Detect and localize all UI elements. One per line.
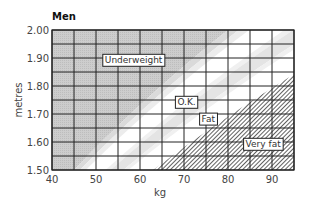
x-tick-label: 80 <box>222 174 235 185</box>
zone-label-o-k: O.K. <box>175 96 197 108</box>
zone-label-text: Very fat <box>246 139 282 149</box>
zone-label-text: O.K. <box>177 97 195 107</box>
zone-label-text: Underweight <box>105 55 163 65</box>
x-tick-label: 60 <box>134 174 147 185</box>
bmi-chart: Men 405060708090 1.501.601.701.801.902.0… <box>0 0 313 208</box>
y-tick-label: 2.00 <box>27 25 49 36</box>
y-tick-label: 1.50 <box>27 165 49 176</box>
zone-label-fat: Fat <box>200 113 218 125</box>
zone-label-underweight: Underweight <box>103 54 165 66</box>
x-tick-label: 90 <box>266 174 279 185</box>
zone-label-very-fat: Very fat <box>244 138 284 150</box>
x-tick-label: 50 <box>90 174 103 185</box>
x-tick-label: 70 <box>178 174 191 185</box>
y-tick-label: 1.60 <box>27 137 49 148</box>
x-axis-label: kg <box>154 187 166 198</box>
zone-label-text: Fat <box>202 114 216 124</box>
y-tick-label: 1.70 <box>27 109 49 120</box>
y-axis-label: metres <box>13 82 24 117</box>
chart-title: Men <box>52 11 76 22</box>
x-axis: 405060708090 <box>46 174 279 185</box>
y-tick-label: 1.80 <box>27 81 49 92</box>
y-axis: 1.501.601.701.801.902.00 <box>27 25 49 176</box>
y-tick-label: 1.90 <box>27 53 49 64</box>
